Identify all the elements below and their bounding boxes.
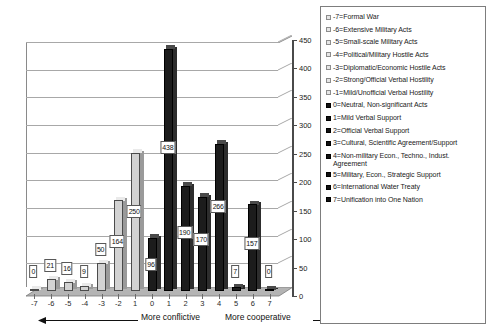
gridline [26,97,278,98]
legend-swatch-icon [326,116,331,121]
bar-face [131,153,140,291]
bar-value-label: 266 [211,200,226,213]
x-axis-tick-label: 4 [217,299,221,308]
bar [265,290,274,292]
bar-value-label: 170 [194,233,209,246]
legend-swatch-icon [326,185,331,190]
left-arrow-icon [38,316,138,325]
gridline-bevel [278,146,293,154]
legend-item-label: 0=Neutral, Non-significant Acts [333,101,427,109]
y-axis-tick-label: 300 [299,121,312,130]
legend-item-label: 2=Official Verbal Support [333,127,409,135]
gridline-bevel [278,118,293,126]
gridline-bevel [278,201,293,209]
legend-item-label: 3=Cultural, Scientific Agreement/Support [333,139,457,147]
x-axis-tick-label: 1 [167,299,171,308]
bar-face [47,279,56,291]
legend-item[interactable]: 5=Military, Econ., Strategic Support [326,171,482,179]
bar-value-label: 9 [80,265,88,278]
legend-item-label: 1=Mild Verbal Support [333,114,401,122]
x-axis-tick-label: 3 [200,299,204,308]
legend-item[interactable]: -4=Political/Military Hostile Acts [326,51,482,59]
y-axis-tick [292,40,297,41]
legend-swatch-icon [326,197,331,202]
legend-item[interactable]: 1=Mild Verbal Support [326,114,482,122]
legend-swatch-icon [326,154,331,159]
gridline-bevel [278,173,293,181]
legend-item[interactable]: 6=International Water Treaty [326,183,482,191]
bar-value-label: 190 [177,226,192,239]
x-axis-tick-label: -3 [98,299,105,308]
legend-item-label: -5=Small-scale Military Acts [333,38,417,46]
legend-item[interactable]: -6=Extensive Military Acts [326,26,482,34]
x-axis-tick-label: 6 [251,299,255,308]
gridline [26,180,278,181]
y-axis-tick-label: 450 [299,36,312,45]
legend-swatch-icon [326,90,331,95]
legend-item[interactable]: -3=Diplomatic/Economic Hostile Acts [326,64,482,72]
x-axis-tick-label: 0 [150,299,154,308]
legend-item[interactable]: -1=Mild/Unofficial Verbal Hostility [326,89,482,97]
legend-swatch-icon [326,65,331,70]
legend-swatch-icon [326,128,331,133]
gridline [26,125,278,126]
legend-swatch-icon [326,52,331,57]
legend-swatch-icon [326,141,331,146]
more-cooperative-label: More cooperative [225,312,291,322]
y-axis-tick-label: 100 [299,235,312,244]
legend-item[interactable]: 0=Neutral, Non-significant Acts [326,101,482,109]
bar-face [215,144,224,291]
bar-value-label: 16 [61,262,72,275]
x-axis-tick-label: -2 [115,299,122,308]
legend-item[interactable]: 3=Cultural, Scientific Agreement/Support [326,139,482,147]
bar-side [157,236,161,289]
x-axis-tick-label: 1 [133,299,137,308]
y-axis-tick [292,182,297,183]
y-axis-tick-label: 0 [299,292,303,301]
y-axis-tick [292,296,297,297]
legend-item[interactable]: 2=Official Verbal Support [326,127,482,135]
bar-face [30,289,39,291]
bar [215,144,224,291]
legend-item-label: -7=Formal War [333,13,379,21]
plot-area: 050100150200250300350400450 -7-6-5-4-3-2… [0,0,306,334]
legend-swatch-icon [326,172,331,177]
y-axis-tick [292,68,297,69]
bar-side [224,142,228,289]
legend-item[interactable]: -7=Formal War [326,13,482,21]
x-axis-tick-label: 2 [184,299,188,308]
bar [232,287,241,291]
y-axis-tick-label: 150 [299,206,312,215]
bar [64,282,73,291]
bar [97,263,106,291]
y-axis-tick-label: 400 [299,64,312,73]
legend-item-label: -3=Diplomatic/Economic Hostile Acts [333,64,445,72]
legend-item[interactable]: 7=Unification into One Nation [326,196,482,204]
gridline-bevel [278,35,293,43]
legend-item-label: 5=Military, Econ., Strategic Support [333,171,441,179]
legend-item[interactable]: 4=Non-military Econ., Techno., Indust. A… [326,152,482,167]
gridline-bevel [278,90,293,98]
legend-swatch-icon [326,27,331,32]
y-axis-tick-label: 50 [299,263,307,272]
more-conflictive-label: More conflictive [141,312,200,322]
legend-item-label: 4=Non-military Econ., Techno., Indust. A… [333,152,482,167]
y-axis-tick [292,268,297,269]
gridline [26,70,278,71]
x-axis-tick-label: 7 [268,299,272,308]
direction-annotations: More conflictive More cooperative [0,312,306,330]
bar [47,279,56,291]
legend-item[interactable]: -2=Strong/Official Verbal Hostility [326,76,482,84]
gridline-bevel [278,256,293,264]
legend-item-label: -2=Strong/Official Verbal Hostility [333,76,434,84]
gridline [26,42,278,43]
bar-face [265,289,274,291]
x-axis-tick-label: -7 [31,299,38,308]
bar-value-label: 438 [160,141,175,154]
bar-side [173,47,177,289]
bar [131,153,140,291]
bar-side [140,151,144,289]
legend-item[interactable]: -5=Small-scale Military Acts [326,38,482,46]
bar-value-label: 164 [110,235,125,248]
y-axis-tick-label: 200 [299,178,312,187]
